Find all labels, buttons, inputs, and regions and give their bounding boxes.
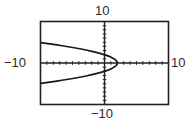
graph-plot bbox=[0, 0, 192, 124]
axes bbox=[41, 22, 169, 105]
